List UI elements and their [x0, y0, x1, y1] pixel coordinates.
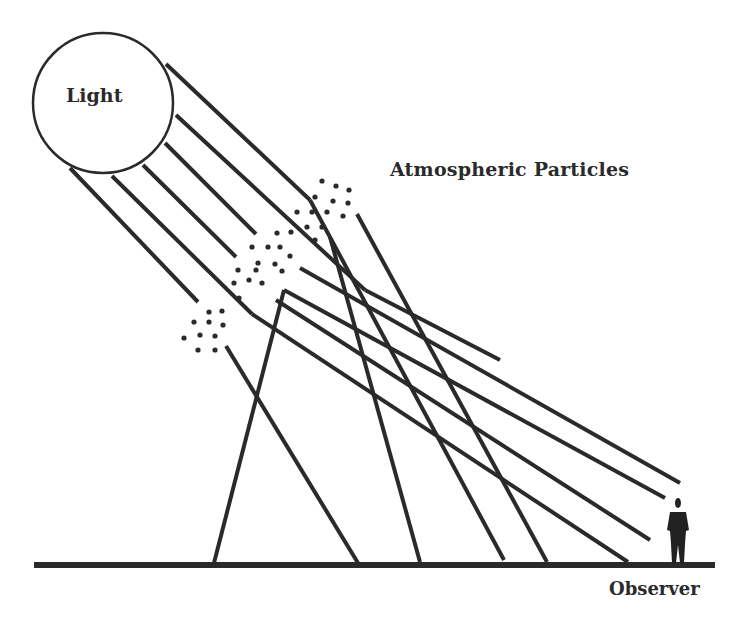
particle-dot: [255, 260, 260, 265]
particle-dot: [277, 244, 282, 249]
light-ray: [300, 268, 680, 483]
light-ray: [330, 237, 420, 562]
light-ray: [143, 165, 236, 257]
observer-person-icon: [667, 498, 689, 563]
particle-dot: [191, 319, 196, 324]
particle-dot: [220, 322, 225, 327]
particle-dot: [212, 347, 217, 352]
particle-dot: [319, 224, 324, 229]
observer-label: Observer: [609, 578, 700, 599]
particle-dot: [288, 229, 293, 234]
particle-dot: [259, 280, 264, 285]
particle-dot: [181, 335, 186, 340]
particle-dot: [231, 280, 236, 285]
particle-dot: [212, 333, 217, 338]
light-ray: [226, 346, 358, 563]
light-ray: [165, 143, 256, 234]
particle-dot: [333, 183, 338, 188]
light-ray: [284, 290, 665, 498]
particle-dot: [197, 332, 202, 337]
particle-dot: [340, 213, 345, 218]
particle-dot: [272, 261, 277, 266]
light-ray: [357, 214, 547, 562]
light-ray: [252, 314, 628, 562]
particle-dot: [294, 209, 299, 214]
light-ray: [112, 176, 252, 314]
light-ray: [276, 300, 650, 540]
light-label: Light: [66, 84, 122, 106]
particle-dot: [253, 267, 258, 272]
particle-dot: [265, 244, 270, 249]
particle-dot: [319, 178, 324, 183]
particle-dot: [287, 253, 292, 258]
particle-dot: [235, 267, 240, 272]
particle-dot: [309, 209, 314, 214]
light-ray: [166, 64, 310, 200]
particle-dot: [279, 268, 284, 273]
particle-dot: [274, 230, 279, 235]
atmospheric-particles: [181, 178, 351, 352]
particle-dot: [304, 224, 309, 229]
particle-dot: [346, 187, 351, 192]
particle-dot: [249, 244, 254, 249]
particle-dot: [206, 319, 211, 324]
particle-dot: [324, 209, 329, 214]
particle-dot: [345, 200, 350, 205]
particle-dot: [195, 347, 200, 352]
particle-dot: [312, 194, 317, 199]
particle-dot: [236, 295, 241, 300]
particle-dot: [246, 277, 251, 282]
particle-dot: [330, 198, 335, 203]
particle-dot: [206, 309, 211, 314]
particle-dot: [219, 308, 224, 313]
atmospheric-particles-label: Atmospheric Particles: [390, 158, 629, 180]
light-ray: [70, 168, 198, 302]
light-ray: [310, 200, 504, 560]
particle-dot: [312, 237, 317, 242]
